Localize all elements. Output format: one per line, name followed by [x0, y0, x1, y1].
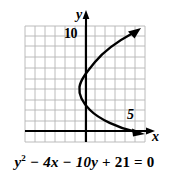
equation-term-4x: − 4x — [30, 154, 59, 170]
x-tick-label-5: 5 — [127, 108, 134, 122]
parabola-figure: y x 10 5 y2 − 4x − 10y + 21 = 0 — [0, 0, 169, 175]
equation-term-21: + 21 — [102, 154, 130, 170]
y-axis-label: y — [76, 8, 82, 22]
x-axis-label: x — [152, 130, 159, 144]
y-tick-label-10: 10 — [64, 27, 77, 41]
equation-equals-zero: = 0 — [134, 154, 154, 170]
equation-exponent: 2 — [21, 153, 26, 163]
coordinate-plane — [0, 0, 169, 150]
curve-arrow-upper — [128, 28, 141, 39]
curve-arrow-lower — [132, 129, 145, 137]
equation-term-10y: − 10y — [63, 154, 99, 170]
equation-caption: y2 − 4x − 10y + 21 = 0 — [0, 149, 169, 175]
